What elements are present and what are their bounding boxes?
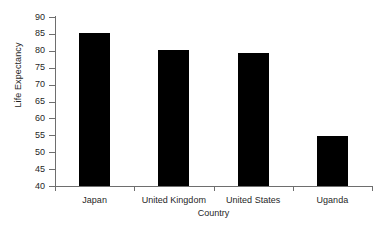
x-axis-tick <box>214 186 215 191</box>
y-axis-tick-label: 60 <box>0 114 45 123</box>
x-axis-label-uganda: Uganda <box>293 195 372 206</box>
x-axis-title: Country <box>55 208 372 218</box>
y-axis-tick-label: 80 <box>0 46 45 55</box>
y-axis-tick-label: 85 <box>0 29 45 38</box>
x-axis-label-united-kingdom: United Kingdom <box>134 195 213 206</box>
x-axis-tick <box>293 186 294 191</box>
y-axis-tick-label: 90 <box>0 13 45 22</box>
y-axis-tick-label: 65 <box>0 97 45 106</box>
bar-japan <box>79 33 110 186</box>
y-axis-title: Life Expectancy <box>13 5 23 145</box>
y-axis-tick-label: 75 <box>0 63 45 72</box>
bar-united-kingdom <box>158 50 189 186</box>
plot-area <box>55 17 372 186</box>
y-axis-tick-label: 55 <box>0 131 45 140</box>
x-axis-label-japan: Japan <box>55 195 134 206</box>
bar-united-states <box>238 53 269 187</box>
y-axis-tick-label: 50 <box>0 148 45 157</box>
y-axis-tick-label: 70 <box>0 80 45 89</box>
bar-chart-figure: Life Expectancy 4045505560657075808590 J… <box>0 0 388 236</box>
x-axis-tick <box>134 186 135 191</box>
x-axis-label-united-states: United States <box>214 195 293 206</box>
x-axis-tick <box>55 186 56 191</box>
y-axis-tick-label: 40 <box>0 182 45 191</box>
x-axis-tick <box>372 186 373 191</box>
y-axis-tick-label: 45 <box>0 165 45 174</box>
bar-uganda <box>317 136 348 186</box>
